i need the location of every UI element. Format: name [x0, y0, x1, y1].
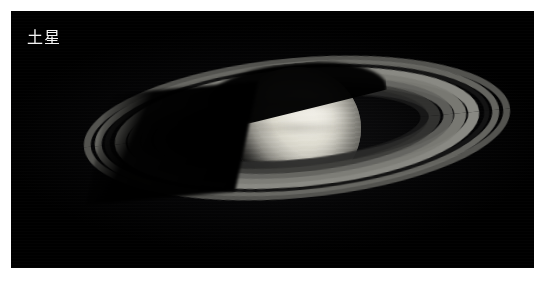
- rings-front-half: [11, 11, 534, 268]
- photo-caption: 土星: [27, 28, 61, 47]
- saturn-photograph: 土星: [11, 11, 534, 268]
- planet-shadow-on-rings: [86, 81, 258, 205]
- page-root: 土星: [0, 0, 551, 285]
- saturn-scene: [11, 11, 534, 268]
